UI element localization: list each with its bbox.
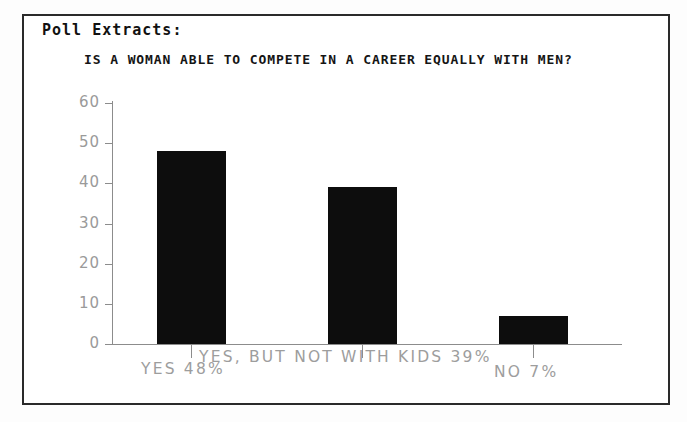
poll-extracts-heading: Poll Extracts: xyxy=(42,21,182,39)
screenshot-root: Poll Extracts: IS A WOMAN ABLE TO COMPET… xyxy=(0,0,687,422)
x-label-1: YES, BUT NOT WITH KIDS 39% xyxy=(199,348,492,366)
poll-extract-frame xyxy=(22,14,670,405)
x-label-2: NO 7% xyxy=(494,363,558,381)
chart-title: IS A WOMAN ABLE TO COMPETE IN A CAREER E… xyxy=(84,52,573,67)
